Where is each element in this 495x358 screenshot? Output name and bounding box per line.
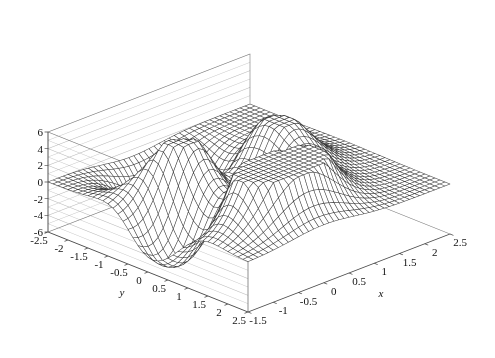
surface-plot-canvas: [0, 0, 495, 358]
surface-plot-figure: 6420-2-4-6-2.5-2-1.5-1-0.500.511.522.5-1…: [0, 0, 495, 358]
